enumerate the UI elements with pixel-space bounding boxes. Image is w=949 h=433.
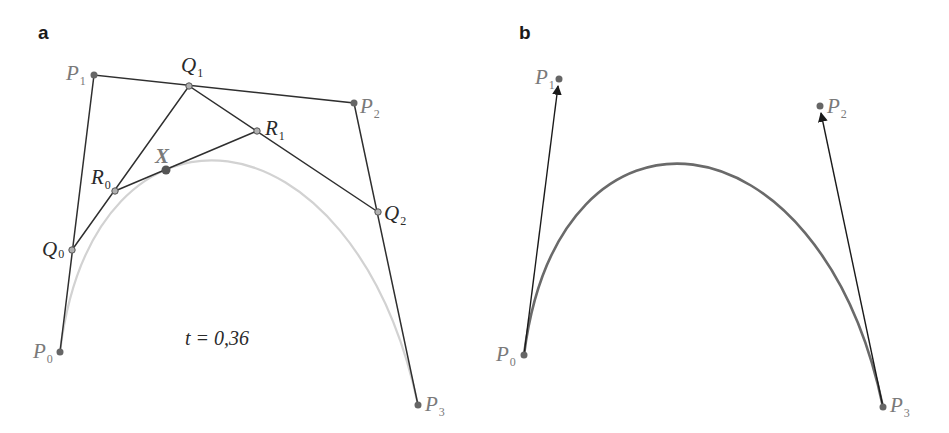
tangent-arrow-p0-p1	[524, 86, 558, 355]
label-r0: R0	[90, 165, 111, 192]
point-p3	[415, 402, 422, 409]
tangent-arrow-p3-p2	[821, 113, 883, 407]
label-p1: P1	[65, 61, 86, 88]
bezier-diagram: a P1 Q1 P2 R1 R0 X Q2 Q0 P0 P3 t = 0,36	[0, 0, 949, 433]
label-p1: P1	[534, 65, 555, 92]
parameter-t-label: t = 0,36	[185, 327, 249, 349]
label-p3: P3	[424, 392, 445, 419]
point-p2	[817, 103, 824, 110]
bezier-curve	[524, 164, 883, 407]
panel-a: a P1 Q1 P2 R1 R0 X Q2 Q0 P0 P3 t = 0,36	[32, 22, 445, 419]
point-q2	[375, 209, 381, 215]
label-p3: P3	[889, 393, 910, 420]
panel-a-label: a	[38, 22, 49, 43]
panel-b-label: b	[519, 22, 531, 43]
bezier-figure: a P1 Q1 P2 R1 R0 X Q2 Q0 P0 P3 t = 0,36	[0, 0, 949, 433]
point-p0	[57, 349, 64, 356]
label-r1: R1	[264, 116, 285, 143]
panel-b: b P0 P1 P2 P3	[495, 22, 910, 420]
label-p0: P0	[32, 339, 53, 366]
label-x: X	[154, 144, 170, 168]
label-q2: Q2	[384, 201, 406, 228]
point-q0	[69, 247, 75, 253]
point-p2	[351, 100, 358, 107]
point-r0	[112, 188, 118, 194]
point-p0	[521, 352, 528, 359]
q-lines	[72, 86, 378, 250]
control-polygon	[60, 75, 418, 405]
label-p0: P0	[495, 342, 516, 369]
label-p2: P2	[826, 94, 847, 121]
bezier-curve-faint	[60, 160, 418, 405]
point-q1	[186, 83, 192, 89]
label-q0: Q0	[42, 237, 64, 261]
label-q1: Q1	[181, 53, 203, 80]
point-p3	[880, 404, 887, 411]
point-p1	[91, 72, 98, 79]
point-p1	[556, 76, 563, 83]
label-p2: P2	[359, 94, 380, 121]
point-r1	[254, 128, 260, 134]
